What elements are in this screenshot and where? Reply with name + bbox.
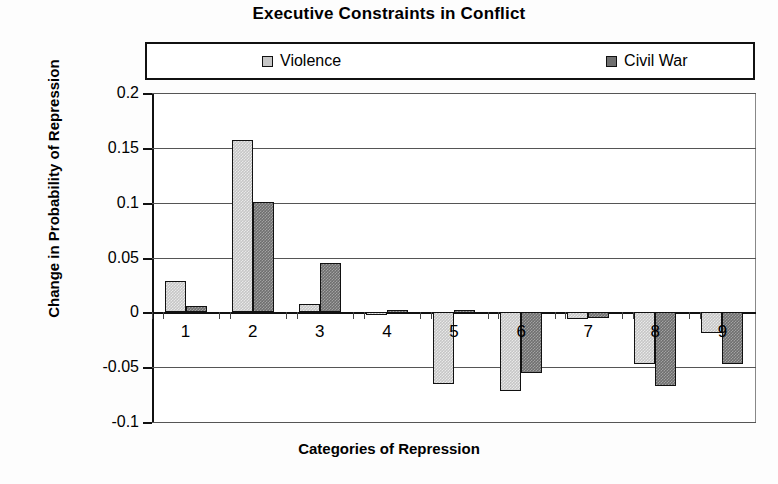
x-tick-label-8: 8 bbox=[651, 322, 660, 342]
plot-area: 0.20.150.10.050-0.05-0.1 123456789 bbox=[152, 93, 756, 422]
x-tick-label-2: 2 bbox=[248, 322, 257, 342]
x-tick-mark bbox=[700, 312, 701, 319]
x-tick-mark bbox=[633, 312, 634, 319]
legend-item-civil-war: Civil War bbox=[606, 52, 687, 70]
x-tick-label-4: 4 bbox=[382, 322, 391, 342]
y-tick-mark bbox=[143, 203, 152, 205]
bar-civil-war-cat-4 bbox=[387, 310, 408, 313]
y-tick-label: 0.1 bbox=[117, 193, 139, 211]
bar-civil-war-cat-3 bbox=[320, 263, 341, 312]
x-tick-mark bbox=[286, 312, 287, 319]
x-tick-mark bbox=[488, 312, 489, 319]
y-axis-title: Change in Probability of Repression bbox=[45, 39, 62, 339]
x-tick-mark bbox=[219, 312, 220, 319]
bar-civil-war-cat-1 bbox=[186, 306, 207, 313]
x-tick-mark bbox=[420, 312, 421, 319]
bar-violence-cat-3 bbox=[299, 304, 320, 313]
x-axis-title: Categories of Repression bbox=[0, 440, 778, 457]
bar-violence-cat-4 bbox=[366, 312, 387, 315]
bar-violence-cat-1 bbox=[165, 281, 186, 313]
gridline-0p2 bbox=[152, 93, 756, 94]
bar-violence-cat-7 bbox=[567, 312, 588, 319]
y-tick-mark bbox=[143, 312, 152, 314]
legend-label-violence: Violence bbox=[280, 52, 341, 70]
legend-label-civil-war: Civil War bbox=[624, 52, 687, 70]
chart-figure: Executive Constraints in Conflict Violen… bbox=[0, 0, 778, 484]
x-tick-label-1: 1 bbox=[181, 322, 190, 342]
y-tick-mark bbox=[143, 93, 152, 95]
y-tick-label: 0.05 bbox=[108, 248, 139, 266]
x-tick-label-7: 7 bbox=[583, 322, 592, 342]
bar-civil-war-cat-2 bbox=[253, 202, 274, 313]
bar-civil-war-cat-7 bbox=[588, 312, 609, 317]
y-tick-label: 0.15 bbox=[108, 138, 139, 156]
x-tick-mark bbox=[230, 312, 231, 319]
bar-violence-cat-2 bbox=[232, 140, 253, 312]
y-tick-mark bbox=[143, 148, 152, 150]
y-tick-mark bbox=[143, 258, 152, 260]
bar-civil-war-cat-5 bbox=[454, 310, 475, 313]
x-tick-label-3: 3 bbox=[315, 322, 324, 342]
x-tick-mark bbox=[152, 312, 153, 319]
x-tick-mark bbox=[689, 312, 690, 319]
x-tick-mark bbox=[565, 312, 566, 319]
legend-item-violence: Violence bbox=[262, 52, 341, 70]
x-tick-mark bbox=[498, 312, 499, 319]
chart-title: Executive Constraints in Conflict bbox=[0, 4, 778, 24]
y-tick-label: 0 bbox=[130, 303, 139, 321]
x-tick-mark bbox=[163, 312, 164, 319]
gridline-neg0p1 bbox=[152, 422, 756, 423]
x-tick-mark bbox=[364, 312, 365, 319]
x-tick-mark bbox=[431, 312, 432, 319]
y-tick-label: -0.05 bbox=[103, 358, 139, 376]
x-tick-mark bbox=[555, 312, 556, 319]
x-tick-mark bbox=[353, 312, 354, 319]
y-tick-mark bbox=[143, 367, 152, 369]
x-tick-label-5: 5 bbox=[449, 322, 458, 342]
x-tick-mark bbox=[622, 312, 623, 319]
legend-swatch-civil-war-icon bbox=[606, 56, 617, 67]
y-tick-mark bbox=[143, 422, 152, 424]
y-tick-label: -0.1 bbox=[111, 413, 139, 431]
y-tick-label: 0.2 bbox=[117, 84, 139, 102]
x-tick-label-9: 9 bbox=[718, 322, 727, 342]
chart-legend: Violence Civil War bbox=[145, 42, 755, 80]
x-tick-mark bbox=[297, 312, 298, 319]
x-tick-label-6: 6 bbox=[516, 322, 525, 342]
legend-swatch-violence-icon bbox=[262, 56, 273, 67]
